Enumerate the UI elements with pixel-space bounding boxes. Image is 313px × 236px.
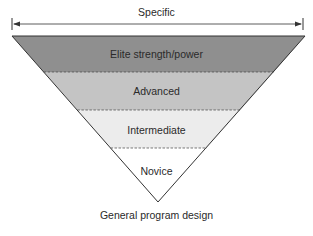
layer-label-advanced: Advanced <box>0 85 313 97</box>
pyramid-diagram <box>0 0 313 236</box>
specific-arrow <box>12 18 303 30</box>
layer-label-intermediate: Intermediate <box>0 124 313 136</box>
layer-label-elite: Elite strength/power <box>0 48 313 60</box>
layer-label-novice: Novice <box>0 165 313 177</box>
top-label: Specific <box>0 6 313 18</box>
bottom-label: General program design <box>0 209 313 221</box>
